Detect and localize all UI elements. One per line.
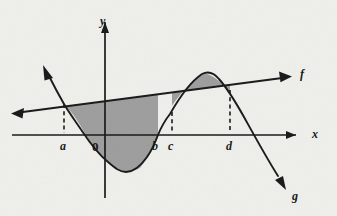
figure-canvas [0, 0, 337, 216]
x-axis-label: x [312, 128, 318, 140]
tick-label-a: a [60, 140, 66, 152]
curve-label-g: g [292, 190, 298, 202]
x-axis-arrow-icon [286, 131, 296, 139]
y-axis-label: y [100, 15, 105, 27]
tick-label-b: b [152, 140, 158, 152]
tick-label-c: c [168, 140, 173, 152]
g-start-arrow-icon [43, 65, 53, 81]
origin-label: 0 [92, 140, 99, 153]
curve-g [43, 65, 286, 190]
tick-label-d: d [226, 140, 232, 152]
g-end-arrow-icon [275, 176, 286, 190]
math-figure: y x 0 a b c d f g [0, 0, 337, 216]
curve-label-f: f [300, 68, 304, 80]
f-left-arrow-icon [11, 108, 24, 119]
f-right-arrow-icon [279, 72, 292, 83]
